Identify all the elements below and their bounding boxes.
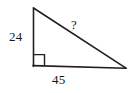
- hypotenuse-line: [34, 8, 127, 68]
- horizontal-leg-label: 45: [52, 73, 65, 86]
- right-angle-marker-icon: [34, 55, 45, 66]
- triangle-figure: 24 45 ?: [0, 0, 132, 93]
- hypotenuse-label: ?: [71, 18, 77, 31]
- vertical-leg-label: 24: [9, 30, 22, 43]
- horizontal-leg-line: [33, 66, 126, 69]
- triangle-graphic: [0, 0, 132, 93]
